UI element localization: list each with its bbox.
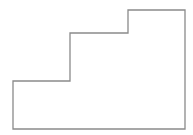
stepped-staircase-outline xyxy=(13,10,185,129)
stepped-shape-diagram xyxy=(0,0,193,135)
